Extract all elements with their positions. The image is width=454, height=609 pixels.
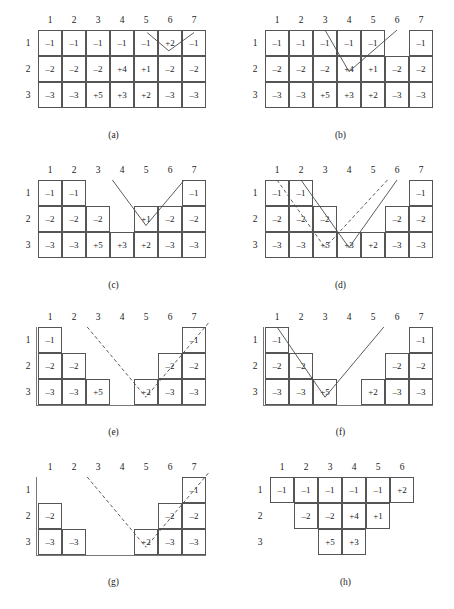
col-header-2: 2	[294, 462, 318, 473]
cell-r3-c2: –3	[62, 82, 86, 108]
panel-caption-c: (c)	[0, 280, 227, 290]
col-header-6: 6	[385, 15, 409, 26]
cell-r2-c2: –2	[294, 503, 318, 529]
cell-r3-c5: +2	[361, 379, 385, 405]
panel-caption-e: (e)	[0, 427, 227, 437]
cell-r3-c1: –3	[265, 82, 289, 108]
cell-r3-c1: –3	[38, 379, 62, 405]
cell-r2-c2: –2	[62, 56, 86, 82]
col-header-4: 4	[110, 462, 134, 473]
cell-r1-c1: –1	[38, 30, 62, 56]
figure-root: 1234567123–1–1–1–1–1+2–1–2–2–2+4+1–2–2–3…	[0, 0, 454, 609]
cell-r2-c4: +4	[110, 56, 134, 82]
cell-r2-c1: –2	[38, 206, 62, 232]
row-header-1: 1	[249, 30, 261, 56]
cell-r3-c3: +5	[313, 82, 337, 108]
cell-r1-c5: –1	[366, 477, 390, 503]
panel-e: 1234567123–1–1–2–2–2–2–3–3+5+2–3–3(e)	[0, 297, 227, 447]
panel-h: 123456123–1–1–1–1–1+2–2–2+4+1+5+3(h)	[232, 447, 454, 597]
row-header-3: 3	[249, 379, 261, 405]
vertical-axis-e	[36, 327, 37, 405]
cell-r3-c1: –3	[38, 82, 62, 108]
cell-r2-c2: –2	[62, 206, 86, 232]
cell-r3-c3: +5	[318, 529, 342, 555]
cell-r1-c7: –1	[409, 180, 433, 206]
cell-r1-c7: –1	[182, 180, 206, 206]
col-header-7: 7	[182, 165, 206, 176]
panel-caption-f: (f)	[227, 427, 454, 437]
cell-r3-c2: –3	[62, 529, 86, 555]
cell-r3-c3: +5	[313, 379, 337, 405]
col-header-2: 2	[62, 165, 86, 176]
cell-r3-c7: –3	[182, 529, 206, 555]
row-header-3: 3	[22, 232, 34, 258]
cell-r3-c4: +3	[110, 82, 134, 108]
cell-r3-c7: –3	[409, 82, 433, 108]
cell-r3-c2: –3	[62, 232, 86, 258]
panel-b: 1234567123–1–1–1–1–1–1–2–2–2+4+1–2–2–3–3…	[227, 0, 454, 150]
cell-r1-c1: –1	[265, 30, 289, 56]
cell-r3-c7: –3	[182, 232, 206, 258]
col-header-7: 7	[182, 312, 206, 323]
col-header-3: 3	[86, 165, 110, 176]
cell-r2-c3: –2	[313, 56, 337, 82]
cell-r3-c2: –3	[289, 232, 313, 258]
cell-r2-c7: –2	[182, 206, 206, 232]
cell-r2-c6: –2	[385, 206, 409, 232]
cell-r3-c7: –3	[409, 379, 433, 405]
cell-r2-c7: –2	[409, 56, 433, 82]
row-header-2: 2	[249, 56, 261, 82]
cell-r1-c7: –1	[182, 327, 206, 353]
cell-r2-c1: –2	[38, 56, 62, 82]
cell-r2-c3: –2	[318, 503, 342, 529]
cell-r2-c2: –2	[289, 206, 313, 232]
col-header-5: 5	[134, 312, 158, 323]
cell-r2-c7: –2	[182, 353, 206, 379]
cell-r2-c3: –2	[86, 206, 110, 232]
row-header-2: 2	[22, 56, 34, 82]
panel-caption-a: (a)	[0, 130, 227, 140]
cell-r1-c1: –1	[270, 477, 294, 503]
panel-caption-d: (d)	[227, 280, 454, 290]
col-header-6: 6	[158, 165, 182, 176]
col-header-4: 4	[110, 312, 134, 323]
cell-r2-c1: –2	[38, 353, 62, 379]
col-header-6: 6	[390, 462, 414, 473]
col-header-4: 4	[337, 15, 361, 26]
col-header-4: 4	[110, 15, 134, 26]
row-header-3: 3	[249, 232, 261, 258]
row-header-1: 1	[254, 477, 266, 503]
cell-r1-c7: –1	[409, 327, 433, 353]
cell-r3-c5: +2	[134, 529, 158, 555]
cell-r2-c4: +4	[337, 56, 361, 82]
row-header-2: 2	[22, 206, 34, 232]
cell-r3-c6: –3	[385, 232, 409, 258]
row-header-3: 3	[22, 529, 34, 555]
cell-r3-c4: +3	[337, 82, 361, 108]
cell-r1-c1: –1	[265, 180, 289, 206]
col-header-4: 4	[337, 165, 361, 176]
cell-r1-c3: –1	[313, 30, 337, 56]
cell-r2-c7: –2	[182, 503, 206, 529]
cell-r2-c5: +1	[366, 503, 390, 529]
cell-r1-c2: –1	[294, 477, 318, 503]
col-header-2: 2	[289, 312, 313, 323]
col-header-3: 3	[313, 15, 337, 26]
cell-r2-c3: –2	[86, 56, 110, 82]
col-header-6: 6	[385, 312, 409, 323]
panel-caption-b: (b)	[227, 130, 454, 140]
cell-r1-c4: –1	[342, 477, 366, 503]
row-header-1: 1	[22, 180, 34, 206]
panel-caption-h: (h)	[232, 577, 454, 587]
cell-r3-c6: –3	[385, 379, 409, 405]
panel-d: 1234567123–1–1–1–2–2–2–2–2–3–3+5+3+2–3–3…	[227, 150, 454, 300]
cell-r1-c5: –1	[361, 30, 385, 56]
row-header-3: 3	[22, 379, 34, 405]
cell-r3-c3: +5	[86, 232, 110, 258]
cell-r3-c1: –3	[265, 379, 289, 405]
cell-r3-c5: +2	[361, 82, 385, 108]
panel-g: 1234567123–1–2–2–2–3–3+2–3–3(g)	[0, 447, 227, 597]
cell-r1-c1: –1	[38, 180, 62, 206]
cell-r2-c7: –2	[409, 353, 433, 379]
baseline-f	[263, 405, 433, 406]
